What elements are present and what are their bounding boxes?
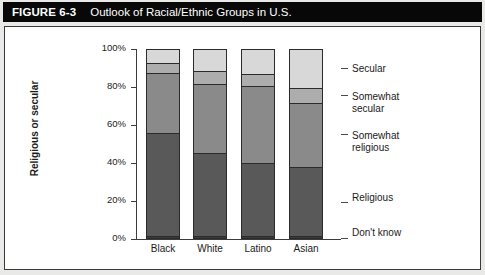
y-tick-mark (131, 87, 137, 88)
bar-segment[interactable] (242, 50, 274, 74)
x-axis-line (136, 239, 341, 240)
bar-segment[interactable] (147, 133, 179, 236)
y-tick-mark (131, 49, 137, 50)
stacked-bar[interactable] (193, 49, 227, 239)
bar-segment[interactable] (194, 84, 226, 154)
legend-leader-line (341, 68, 348, 69)
y-axis-title: Religious or secular (29, 49, 40, 209)
legend-leader-line (341, 134, 348, 135)
bar-segment[interactable] (147, 236, 179, 238)
stacked-bar[interactable] (241, 49, 275, 239)
legend-leader-line (341, 202, 348, 203)
legend-label: Somewhat religious (352, 130, 399, 153)
y-tick-label: 0% (86, 233, 126, 243)
bar-segment[interactable] (290, 103, 322, 167)
bar-segment[interactable] (242, 236, 274, 238)
legend-label: Secular (352, 63, 386, 75)
bar-segment[interactable] (242, 163, 274, 236)
y-tick-mark (131, 201, 137, 202)
legend-label: Religious (352, 192, 393, 204)
bar-segment[interactable] (290, 50, 322, 88)
legend-leader-line (341, 95, 348, 96)
y-tick-mark (131, 239, 137, 240)
figure-container: FIGURE 6-3 Outlook of Racial/Ethnic Grou… (0, 0, 485, 275)
bar-segment[interactable] (290, 167, 322, 237)
y-tick-label: 60% (86, 119, 126, 129)
stacked-bar[interactable] (146, 49, 180, 239)
y-tick-label: 40% (86, 157, 126, 167)
bar-segment[interactable] (290, 88, 322, 103)
chart-panel: Religious or secular 0%20%40%60%80%100% … (4, 26, 481, 270)
bar-segment[interactable] (242, 74, 274, 85)
x-axis-label-asian: Asian (276, 243, 336, 254)
y-tick-label: 100% (86, 43, 126, 53)
bar-segment[interactable] (194, 71, 226, 84)
y-tick-mark (131, 163, 137, 164)
bar-segment[interactable] (242, 86, 274, 163)
bar-segment[interactable] (147, 50, 179, 63)
bar-segment[interactable] (147, 73, 179, 133)
legend-leader-line (341, 238, 348, 239)
plot-area: Religious or secular 0%20%40%60%80%100% … (5, 27, 482, 271)
y-tick-mark (131, 125, 137, 126)
y-tick-label: 20% (86, 195, 126, 205)
bar-segment[interactable] (147, 63, 179, 72)
figure-caption-bar: FIGURE 6-3 Outlook of Racial/Ethnic Grou… (3, 2, 482, 22)
bar-segment[interactable] (194, 50, 226, 71)
figure-title: Outlook of Racial/Ethnic Groups in U.S. (90, 6, 291, 18)
stacked-bar[interactable] (289, 49, 323, 239)
figure-number: FIGURE 6-3 (12, 6, 76, 18)
legend-label: Don't know (352, 227, 401, 239)
bar-segment[interactable] (194, 153, 226, 236)
bar-segment[interactable] (290, 236, 322, 238)
bar-segment[interactable] (194, 236, 226, 238)
y-tick-label: 80% (86, 81, 126, 91)
y-axis-line (136, 49, 137, 240)
legend-label: Somewhat secular (352, 91, 399, 114)
